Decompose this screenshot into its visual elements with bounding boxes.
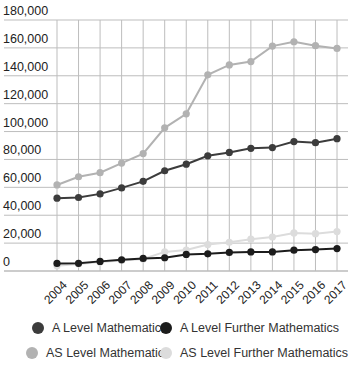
data-point[interactable] <box>269 144 276 151</box>
data-point[interactable] <box>269 248 276 255</box>
data-point[interactable] <box>269 42 276 49</box>
data-point[interactable] <box>290 138 297 145</box>
data-point[interactable] <box>96 258 103 265</box>
data-point[interactable] <box>226 61 233 68</box>
y-tick-label: 60,000 <box>3 171 41 185</box>
data-point[interactable] <box>312 139 319 146</box>
legend-item-as-level-mathematics[interactable]: AS Level Mathematics <box>26 346 170 360</box>
data-point[interactable] <box>204 241 211 248</box>
data-point[interactable] <box>312 42 319 49</box>
data-point[interactable] <box>161 124 168 131</box>
legend-label: AS Level Further Mathematics <box>180 346 348 360</box>
y-axis-labels: 020,00040,00060,00080,000100,000120,0001… <box>3 4 48 269</box>
y-tick-label: 100,000 <box>3 116 48 130</box>
y-tick-label: 40,000 <box>3 199 41 213</box>
data-point[interactable] <box>75 173 82 180</box>
y-tick-label: 80,000 <box>3 143 41 157</box>
y-tick-label: 160,000 <box>3 32 48 46</box>
legend-swatch-icon <box>32 322 44 334</box>
data-point[interactable] <box>140 150 147 157</box>
line-chart: 020,00040,00060,00080,000100,000120,0001… <box>0 0 360 310</box>
data-point[interactable] <box>333 228 340 235</box>
legend-label: A Level Mathematics <box>52 321 167 335</box>
data-point[interactable] <box>53 195 60 202</box>
data-point[interactable] <box>53 181 60 188</box>
data-point[interactable] <box>226 149 233 156</box>
data-point[interactable] <box>312 246 319 253</box>
data-point[interactable] <box>269 233 276 240</box>
legend-swatch-icon <box>160 347 172 359</box>
legend-item-as-level-further-mathematics[interactable]: AS Level Further Mathematics <box>160 346 348 360</box>
x-tick-label: 2008 <box>127 278 156 307</box>
data-point[interactable] <box>96 169 103 176</box>
data-point[interactable] <box>247 248 254 255</box>
chart-series <box>53 38 340 269</box>
data-point[interactable] <box>290 38 297 45</box>
legend-swatch-icon <box>26 347 38 359</box>
data-point[interactable] <box>118 184 125 191</box>
data-point[interactable] <box>312 230 319 237</box>
data-point[interactable] <box>247 236 254 243</box>
y-tick-label: 180,000 <box>3 4 48 18</box>
x-tick-label: 2011 <box>193 278 221 306</box>
series-a-level-mathematics <box>53 135 340 202</box>
data-point[interactable] <box>247 58 254 65</box>
data-point[interactable] <box>161 167 168 174</box>
series-line <box>57 42 337 185</box>
data-point[interactable] <box>140 178 147 185</box>
data-point[interactable] <box>183 110 190 117</box>
y-tick-label: 120,000 <box>3 88 48 102</box>
data-point[interactable] <box>118 256 125 263</box>
data-point[interactable] <box>204 71 211 78</box>
data-point[interactable] <box>226 239 233 246</box>
y-tick-label: 20,000 <box>3 227 41 241</box>
data-point[interactable] <box>204 250 211 257</box>
legend-item-a-level-mathematics[interactable]: A Level Mathematics <box>32 321 167 335</box>
legend-item-a-level-further-mathematics[interactable]: A Level Further Mathematics <box>160 321 339 335</box>
x-tick-label: 2007 <box>106 278 135 307</box>
series-line <box>57 139 337 199</box>
y-tick-label: 0 <box>3 255 10 269</box>
x-tick-label: 2006 <box>84 278 113 307</box>
data-point[interactable] <box>333 45 340 52</box>
data-point[interactable] <box>183 161 190 168</box>
data-point[interactable] <box>333 135 340 142</box>
y-tick-label: 140,000 <box>3 60 48 74</box>
legend-swatch-icon <box>160 322 172 334</box>
legend-label: AS Level Mathematics <box>46 346 170 360</box>
data-point[interactable] <box>247 145 254 152</box>
legend-label: A Level Further Mathematics <box>180 321 339 335</box>
series-as-level-mathematics <box>53 38 340 188</box>
data-point[interactable] <box>53 260 60 267</box>
data-point[interactable] <box>161 254 168 261</box>
data-point[interactable] <box>290 247 297 254</box>
data-point[interactable] <box>75 260 82 267</box>
data-point[interactable] <box>226 249 233 256</box>
x-tick-label: 2012 <box>213 278 242 307</box>
data-point[interactable] <box>204 152 211 159</box>
x-axis-labels: 2004200520062007200820092010201120122013… <box>41 278 350 307</box>
data-point[interactable] <box>96 190 103 197</box>
data-point[interactable] <box>333 245 340 252</box>
x-tick-label: 2005 <box>63 278 92 307</box>
x-tick-label: 2015 <box>278 278 307 307</box>
data-point[interactable] <box>140 255 147 262</box>
x-tick-label: 2014 <box>257 278 286 307</box>
x-tick-label: 2013 <box>235 278 264 307</box>
x-tick-label: 2009 <box>149 278 178 307</box>
series-as-level-further-mathematics <box>53 228 340 269</box>
x-tick-label: 2004 <box>41 278 70 307</box>
x-tick-label: 2010 <box>170 278 199 307</box>
data-point[interactable] <box>118 159 125 166</box>
data-point[interactable] <box>183 251 190 258</box>
x-tick-label: 2017 <box>321 278 350 307</box>
x-tick-label: 2016 <box>300 278 329 307</box>
data-point[interactable] <box>290 229 297 236</box>
data-point[interactable] <box>75 194 82 201</box>
